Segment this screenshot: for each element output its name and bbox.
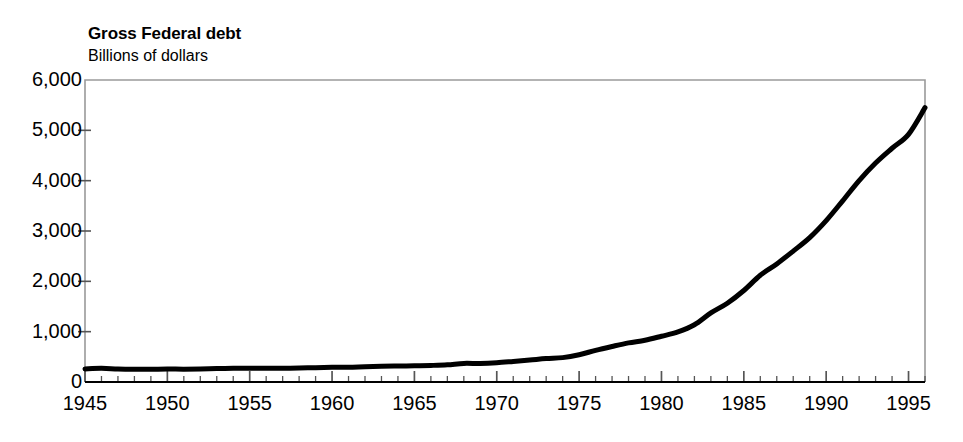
x-axis-tick-label: 1955: [227, 392, 272, 414]
x-axis-tick-label: 1960: [310, 392, 355, 414]
x-axis-tick-label: 1980: [639, 392, 684, 414]
x-axis-tick-label: 1965: [392, 392, 437, 414]
x-axis-tick-label: 1995: [886, 392, 931, 414]
x-axis-tick-label: 1945: [63, 392, 108, 414]
x-axis-tick-label: 1985: [722, 392, 767, 414]
chart-figure: Gross Federal debt Billions of dollars 6…: [0, 0, 963, 442]
x-axis-tick-label: 1990: [804, 392, 849, 414]
x-axis-tick-label: 1975: [557, 392, 602, 414]
x-axis-tick-label: 1970: [475, 392, 520, 414]
x-axis-tick-labels: 1945195019551960196519701975198019851990…: [0, 0, 963, 442]
x-axis-tick-label: 1950: [145, 392, 190, 414]
